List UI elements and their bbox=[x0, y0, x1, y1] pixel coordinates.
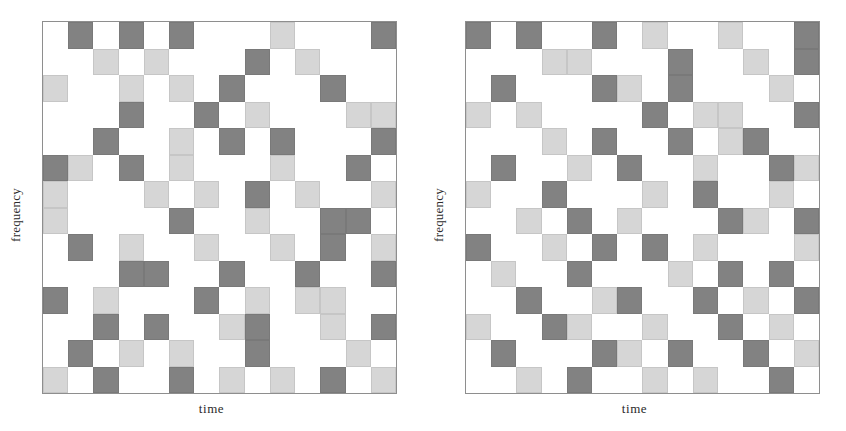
grid-cell-empty bbox=[219, 181, 244, 208]
grid-cell-dark bbox=[194, 102, 219, 129]
grid-cell-empty bbox=[169, 102, 194, 129]
grid-cell-empty bbox=[295, 22, 320, 49]
grid-cell-dark bbox=[794, 49, 819, 76]
grid-cell-empty bbox=[769, 234, 794, 261]
grid-cell-dark bbox=[219, 128, 244, 155]
grid-cell-light bbox=[718, 22, 743, 49]
grid-cell-dark bbox=[68, 340, 93, 367]
grid-cell-light bbox=[371, 234, 396, 261]
grid-cell-empty bbox=[68, 181, 93, 208]
grid-cell-light bbox=[245, 208, 270, 235]
grid-cell-empty bbox=[718, 49, 743, 76]
grid-cell-empty bbox=[270, 181, 295, 208]
grid-cell-light bbox=[466, 314, 491, 341]
grid-cell-dark bbox=[769, 367, 794, 394]
grid-cell-empty bbox=[295, 234, 320, 261]
grid-cell-light bbox=[769, 75, 794, 102]
grid-cell-dark bbox=[743, 340, 768, 367]
grid-cell-empty bbox=[194, 128, 219, 155]
grid-cell-empty bbox=[769, 128, 794, 155]
grid-cell-empty bbox=[592, 102, 617, 129]
grid-cell-empty bbox=[245, 22, 270, 49]
grid-cell-dark bbox=[617, 287, 642, 314]
grid-cell-empty bbox=[743, 75, 768, 102]
grid-cell-empty bbox=[693, 128, 718, 155]
grid-cell-empty bbox=[68, 367, 93, 394]
grid-cell-empty bbox=[245, 261, 270, 288]
grid-cell-dark bbox=[320, 75, 345, 102]
grid-cell-empty bbox=[219, 208, 244, 235]
grid-cell-dark bbox=[592, 75, 617, 102]
grid-cell-dark bbox=[43, 155, 68, 182]
grid-cell-empty bbox=[617, 314, 642, 341]
grid-cell-light bbox=[794, 340, 819, 367]
grid-cell-empty bbox=[93, 181, 118, 208]
grid-cell-empty bbox=[567, 287, 592, 314]
grid-cell-empty bbox=[43, 128, 68, 155]
grid-cell-empty bbox=[144, 287, 169, 314]
grid-cell-empty bbox=[642, 261, 667, 288]
grid-cell-empty bbox=[592, 367, 617, 394]
grid-cell-empty bbox=[119, 128, 144, 155]
grid-cell-empty bbox=[642, 49, 667, 76]
grid-cell-dark bbox=[617, 155, 642, 182]
grid-cell-empty bbox=[466, 128, 491, 155]
grid-cell-empty bbox=[794, 261, 819, 288]
grid-cell-empty bbox=[245, 128, 270, 155]
grid-cell-empty bbox=[270, 287, 295, 314]
grid-cell-empty bbox=[466, 287, 491, 314]
grid-cell-empty bbox=[491, 287, 516, 314]
grid-cell-empty bbox=[245, 234, 270, 261]
grid-cell-dark bbox=[466, 234, 491, 261]
grid-cell-dark bbox=[219, 75, 244, 102]
grid-cell-empty bbox=[592, 181, 617, 208]
grid-cell-empty bbox=[642, 128, 667, 155]
grid-cell-dark bbox=[295, 261, 320, 288]
grid-cell-light bbox=[769, 314, 794, 341]
grid-cell-empty bbox=[542, 261, 567, 288]
grid-cell-light bbox=[371, 102, 396, 129]
grid-cell-dark bbox=[219, 261, 244, 288]
grid-cell-light bbox=[270, 22, 295, 49]
grid-cell-empty bbox=[668, 367, 693, 394]
grid-cell-empty bbox=[642, 208, 667, 235]
grid-cell-empty bbox=[516, 181, 541, 208]
grid-cell-light bbox=[295, 287, 320, 314]
grid-cell-empty bbox=[93, 75, 118, 102]
grid-cell-empty bbox=[592, 155, 617, 182]
grid-cell-dark bbox=[144, 261, 169, 288]
grid-cell-empty bbox=[119, 314, 144, 341]
grid-cell-empty bbox=[516, 128, 541, 155]
grid-cell-empty bbox=[144, 234, 169, 261]
grid-cell-empty bbox=[491, 181, 516, 208]
grid-cell-empty bbox=[295, 102, 320, 129]
grid-cell-dark bbox=[371, 314, 396, 341]
grid-cell-light bbox=[194, 234, 219, 261]
grid-cell-empty bbox=[769, 102, 794, 129]
grid-cell-empty bbox=[542, 287, 567, 314]
grid-cell-empty bbox=[219, 287, 244, 314]
grid-cell-empty bbox=[642, 287, 667, 314]
grid-cell-empty bbox=[93, 208, 118, 235]
grid-cell-empty bbox=[320, 102, 345, 129]
grid-cell-light bbox=[794, 234, 819, 261]
grid-cell-empty bbox=[219, 340, 244, 367]
grid-cell-empty bbox=[718, 340, 743, 367]
grid-cell-empty bbox=[617, 22, 642, 49]
grid-cell-empty bbox=[219, 102, 244, 129]
grid-cell-empty bbox=[346, 287, 371, 314]
grid-cell-light bbox=[169, 128, 194, 155]
grid-cell-empty bbox=[371, 75, 396, 102]
grid-cell-empty bbox=[169, 181, 194, 208]
grid-cell-empty bbox=[194, 155, 219, 182]
grid-cell-dark bbox=[516, 287, 541, 314]
grid-cell-empty bbox=[718, 75, 743, 102]
grid-cell-empty bbox=[320, 340, 345, 367]
grid-cell-empty bbox=[693, 208, 718, 235]
grid-cell-empty bbox=[769, 287, 794, 314]
grid-cell-dark bbox=[245, 49, 270, 76]
grid-cell-light bbox=[169, 75, 194, 102]
grid-cell-dark bbox=[119, 261, 144, 288]
grid-cell-light bbox=[43, 367, 68, 394]
grid-cell-dark bbox=[245, 340, 270, 367]
